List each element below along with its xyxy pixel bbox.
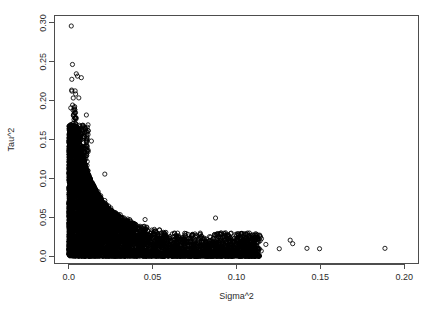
- plot-canvas: 0.00.050.100.150.20Sigma^20.00.050.100.1…: [0, 0, 431, 318]
- data-point: [69, 24, 73, 28]
- data-point: [143, 217, 147, 221]
- x-tick-label: 0.05: [144, 272, 162, 282]
- data-point: [79, 76, 83, 80]
- y-tick-label: 0.15: [38, 131, 48, 149]
- data-point: [84, 113, 88, 117]
- tau-squared-axis: 0.00.050.100.150.200.250.30: [38, 14, 55, 262]
- x-axis-title: Sigma^2: [219, 291, 254, 301]
- data-point: [89, 139, 93, 143]
- data-point: [264, 242, 268, 246]
- data-point: [383, 246, 387, 250]
- data-point: [70, 77, 74, 81]
- data-point: [77, 96, 81, 100]
- y-tick-label: 0.0: [38, 250, 48, 263]
- y-tick-label: 0.30: [38, 14, 48, 32]
- y-axis-title: Tau^2: [6, 128, 16, 152]
- data-point: [103, 172, 107, 176]
- x-tick-label: 0.0: [63, 272, 76, 282]
- data-point: [71, 96, 75, 100]
- data-point: [305, 246, 309, 250]
- x-tick-label: 0.20: [395, 272, 413, 282]
- y-tick-label: 0.25: [38, 53, 48, 71]
- y-tick-label: 0.20: [38, 92, 48, 110]
- data-point: [291, 242, 295, 246]
- x-tick-label: 0.10: [228, 272, 246, 282]
- sigma-squared-axis: 0.00.050.100.150.20: [63, 264, 414, 282]
- y-tick-label: 0.10: [38, 170, 48, 188]
- data-points-layer: [67, 24, 387, 258]
- data-point: [317, 247, 321, 251]
- y-tick-label: 0.05: [38, 208, 48, 226]
- x-tick-label: 0.15: [312, 272, 330, 282]
- data-point: [277, 247, 281, 251]
- scatter-plot-figure: 0.00.050.100.150.20Sigma^20.00.050.100.1…: [0, 0, 431, 318]
- data-point: [70, 62, 74, 66]
- data-point: [213, 216, 217, 220]
